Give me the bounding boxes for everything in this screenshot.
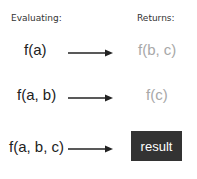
returns-header: Returns: — [137, 13, 175, 23]
input-expression-1: f(a) — [24, 41, 47, 58]
return-expression-1: f(b, c) — [138, 41, 176, 58]
return-expression-2: f(c) — [146, 86, 168, 103]
result-box: result — [131, 131, 182, 161]
arrow-right-icon — [68, 144, 114, 154]
evaluating-header: Evaluating: — [11, 13, 62, 23]
arrow-right-icon — [68, 48, 114, 58]
input-expression-2: f(a, b) — [17, 86, 56, 103]
arrow-right-icon — [68, 93, 114, 103]
input-expression-3: f(a, b, c) — [9, 138, 64, 155]
